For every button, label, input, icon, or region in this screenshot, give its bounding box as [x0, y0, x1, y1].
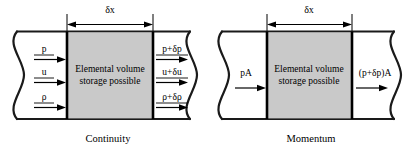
outlet-arrowhead-u — [179, 79, 188, 86]
outlet-label-pa: (p+δp)A — [359, 68, 392, 79]
outlet-label-u: u+δu — [162, 67, 182, 77]
dimension-arrowhead-right — [343, 21, 352, 27]
inlet-arrowhead-p — [57, 56, 66, 63]
panel-caption-continuity: Continuity — [86, 133, 132, 144]
elemental-volume-text-line2: storage possible — [80, 76, 141, 86]
dimension-arrowhead-right — [144, 21, 153, 27]
dimension-label: δx — [105, 4, 115, 15]
inlet-label-p: p — [42, 44, 47, 54]
panel-continuity: δx Elemental volume storage possible p u — [13, 4, 197, 144]
dimension-label: δx — [304, 4, 314, 15]
inlet-label-u: u — [42, 67, 47, 77]
pipe-break-right — [186, 32, 197, 120]
figure-canvas: δx Elemental volume storage possible p u — [0, 0, 417, 151]
dimension-arrowhead-left — [67, 21, 76, 27]
inlet-arrowhead-pa — [257, 85, 266, 92]
outlet-arrowhead-p — [179, 56, 188, 63]
outlet-label-p: p+δp — [162, 44, 182, 54]
inlet-label-rho: ρ — [42, 92, 47, 102]
elemental-volume-text-line1: Elemental volume — [75, 64, 144, 74]
outlet-label-rho: ρ+δρ — [162, 92, 182, 102]
inlet-arrowhead-u — [57, 79, 66, 86]
elemental-volume-text-line1: Elemental volume — [274, 64, 343, 74]
elemental-volume-text-line2: storage possible — [279, 76, 340, 86]
dimension-arrowhead-left — [267, 21, 276, 27]
inlet-arrowhead-rho — [57, 104, 66, 111]
inlet-label-pa: pA — [240, 68, 252, 78]
pipe-break-left — [218, 32, 229, 120]
pipe-break-right — [390, 32, 401, 120]
panel-momentum: δx Elemental volume storage possible pA … — [218, 4, 401, 144]
panel-caption-momentum: Momentum — [287, 133, 336, 144]
fluid-control-volume-figure: δx Elemental volume storage possible p u — [0, 0, 417, 151]
pipe-break-left — [13, 32, 24, 120]
outlet-arrowhead-pa — [379, 85, 388, 92]
